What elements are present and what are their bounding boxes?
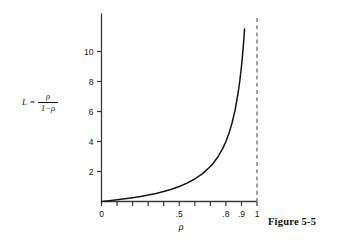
x-axis-title: ρ: [178, 221, 184, 232]
y-tick-label: 8: [89, 77, 94, 87]
chart-ticks: [97, 52, 257, 207]
y-tick-label: 2: [89, 167, 94, 177]
y-tick-label: 4: [89, 137, 94, 147]
chart-curve: [102, 29, 245, 202]
figure-page: L = ρ 1−ρ 2468100.5.8.91 ρ Figure 5-5: [0, 0, 339, 252]
x-tick-label: .5: [176, 209, 183, 219]
x-tick-label: 0: [99, 209, 104, 219]
x-tick-label: 1: [255, 209, 260, 219]
chart-plot: 2468100.5.8.91 ρ: [0, 0, 339, 252]
figure-caption: Figure 5-5: [268, 216, 316, 227]
x-tick-label: .8: [222, 209, 229, 219]
x-axis-title-text: ρ: [178, 221, 184, 232]
y-tick-label: 6: [89, 107, 94, 117]
y-tick-label: 10: [84, 47, 94, 57]
curve-path: [102, 29, 245, 202]
chart-tick-labels: 2468100.5.8.91: [84, 47, 260, 219]
chart-axes: [102, 14, 258, 202]
x-tick-label: .9: [238, 209, 245, 219]
